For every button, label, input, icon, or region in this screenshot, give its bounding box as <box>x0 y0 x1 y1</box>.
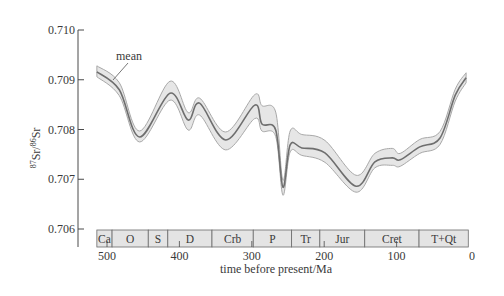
ylabel-sup2: 86 <box>29 138 38 146</box>
annotation-label: mean <box>116 49 142 63</box>
svg-text:Crb: Crb <box>224 233 242 245</box>
ylabel-base2: Sr <box>29 128 43 139</box>
y-axis: 0.7060.7070.7080.7090.710 <box>48 23 84 247</box>
geologic-period-bar: CaOSDCrbPTrJurCretT+Qt <box>97 230 468 247</box>
period-crb: Crb <box>212 230 253 247</box>
svg-text:D: D <box>186 233 194 245</box>
svg-text:S: S <box>155 233 161 245</box>
period-o: O <box>112 230 148 247</box>
sr-isotope-chart: 0.7060.7070.7080.7090.710 CaOSDCrbPTrJur… <box>0 0 504 296</box>
x-axis-title: time before present/Ma <box>220 262 333 276</box>
svg-text:O: O <box>126 233 134 245</box>
svg-text:Tr: Tr <box>301 233 312 245</box>
mean-annotation: mean <box>113 49 142 80</box>
y-axis-title: 87Sr/86Sr <box>29 128 43 169</box>
svg-text:P: P <box>269 233 275 245</box>
svg-text:T+Qt: T+Qt <box>431 233 457 245</box>
y-tick-label: 0.706 <box>48 222 75 236</box>
ylabel-base1: Sr <box>29 150 43 161</box>
x-tick-label: 100 <box>388 249 406 263</box>
x-tick-label: 400 <box>170 249 188 263</box>
period-ca: Ca <box>97 230 112 247</box>
period-s: S <box>148 230 168 247</box>
x-tick-label: 300 <box>243 249 261 263</box>
y-tick-label: 0.709 <box>48 73 75 87</box>
period-p: P <box>253 230 291 247</box>
svg-text:Jur: Jur <box>335 233 349 245</box>
annotation-leader-line <box>113 63 128 80</box>
ylabel-sup1: 87 <box>29 160 38 168</box>
period-d: D <box>168 230 212 247</box>
period-tqt: T+Qt <box>419 230 468 247</box>
period-jur: Jur <box>320 230 365 247</box>
x-tick-label: 500 <box>98 249 116 263</box>
x-tick-label: 200 <box>315 249 333 263</box>
period-tr: Tr <box>292 230 320 247</box>
period-cret: Cret <box>365 230 419 247</box>
x-tick-label: 0 <box>469 249 475 263</box>
y-tick-label: 0.707 <box>48 172 75 186</box>
svg-text:87Sr/86Sr: 87Sr/86Sr <box>29 128 43 169</box>
svg-text:Ca: Ca <box>98 233 111 245</box>
y-tick-label: 0.710 <box>48 23 75 37</box>
y-tick-label: 0.708 <box>48 123 75 137</box>
svg-text:Cret: Cret <box>382 233 403 245</box>
